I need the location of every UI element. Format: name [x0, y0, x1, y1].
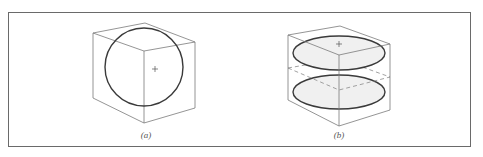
panel-a-cube: [93, 23, 195, 123]
panel-a-center-cross-icon: [152, 66, 158, 72]
figure-canvas: [0, 0, 483, 157]
panel-a-caption: (a): [141, 130, 152, 140]
panel-b-caption: (b): [334, 130, 345, 140]
